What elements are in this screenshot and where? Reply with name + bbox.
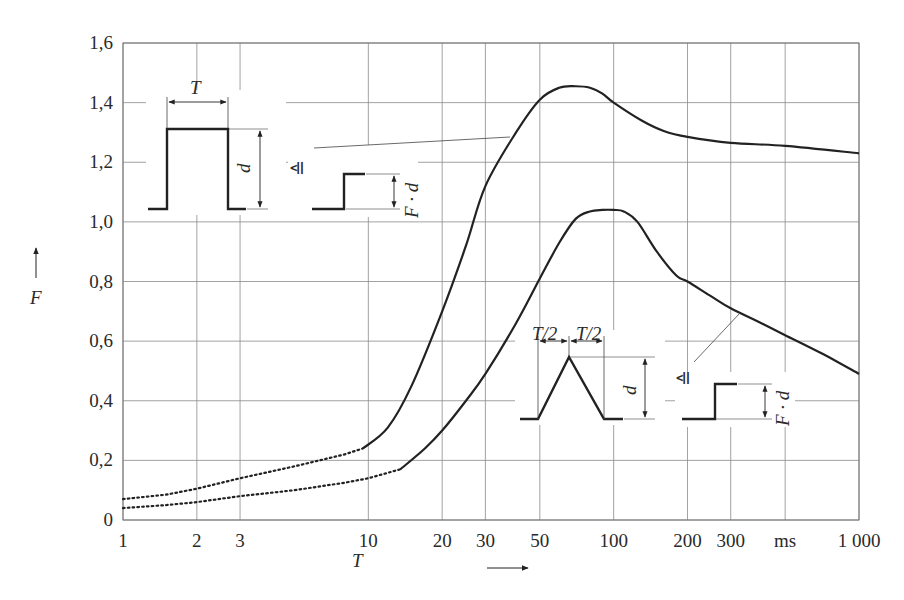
y-tick-label: 1,4 xyxy=(89,92,113,113)
chart: 00,20,40,60,81,01,21,41,6 12310203050100… xyxy=(0,0,904,600)
y-tick-label: 0,6 xyxy=(89,330,113,351)
inset1-d-label: d xyxy=(233,163,254,173)
inset1-Fd-label: F · d xyxy=(401,182,422,219)
equiv-symbol-icon: ≙ xyxy=(675,370,696,386)
y-axis-title: F xyxy=(29,287,42,308)
y-tick-label: 1,0 xyxy=(89,211,113,232)
inset-triangular-pulse: T/2 T/2 d xyxy=(515,323,665,425)
inset2-d-label: d xyxy=(619,385,640,395)
x-axis-label: T xyxy=(352,550,528,571)
y-tick-label: 1,6 xyxy=(89,32,113,53)
equiv-symbol-icon: ≙ xyxy=(289,160,310,176)
x-tick-label: ms xyxy=(774,530,796,551)
y-tick-label: 1,2 xyxy=(89,151,113,172)
x-tick-label: 20 xyxy=(433,530,452,551)
x-axis-title: T xyxy=(352,550,364,571)
y-axis-ticks: 00,20,40,60,81,01,21,41,6 xyxy=(89,32,113,530)
inset2-Fd-label: F · d xyxy=(772,390,793,427)
y-tick-label: 0,4 xyxy=(89,390,113,411)
x-tick-label: 200 xyxy=(673,530,702,551)
pointer-line xyxy=(694,313,740,362)
inset-rectangular-pulse: T d xyxy=(146,77,286,215)
x-tick-label: 50 xyxy=(530,530,549,551)
y-tick-label: 0,8 xyxy=(89,271,113,292)
x-tick-label: 2 xyxy=(192,530,202,551)
x-tick-label: 30 xyxy=(476,530,495,551)
inset2-half1-label: T/2 xyxy=(532,323,558,344)
x-tick-label: 300 xyxy=(716,530,745,551)
y-tick-label: 0,2 xyxy=(89,449,113,470)
x-tick-label: 100 xyxy=(599,530,628,551)
x-tick-label: 3 xyxy=(235,530,245,551)
x-tick-label: 1 xyxy=(118,530,128,551)
x-tick-label: 1 000 xyxy=(838,530,881,551)
series-1-dotted xyxy=(123,448,363,499)
inset-equivalent-step-1: ≙ F · d xyxy=(288,137,510,219)
series-2-dotted xyxy=(123,469,400,508)
x-tick-label: 10 xyxy=(359,530,378,551)
inset2-half2-label: T/2 xyxy=(576,323,602,344)
inset1-T-label: T xyxy=(190,77,202,98)
y-tick-label: 0 xyxy=(104,509,114,530)
x-axis-ticks: 12310203050100200300ms1 000 xyxy=(118,530,880,551)
y-axis-label: F xyxy=(29,248,42,308)
